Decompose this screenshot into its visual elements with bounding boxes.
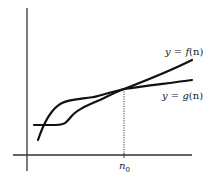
label-n0-sub: 0: [125, 166, 129, 174]
label-f-prefix: y =: [165, 46, 185, 57]
curve-g: [34, 80, 192, 125]
diagram-canvas: y = f(n) y = g(n) n0: [0, 0, 207, 181]
label-g-arg: (n): [189, 90, 203, 101]
label-n0: n0: [119, 160, 130, 174]
label-g-prefix: y =: [162, 90, 182, 101]
label-f: y = f(n): [165, 46, 203, 57]
label-g: y = g(n): [162, 90, 203, 101]
label-f-arg: (n): [189, 46, 203, 57]
